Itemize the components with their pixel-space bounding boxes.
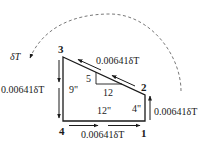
slope-rise-label: 5 [86, 74, 91, 84]
node-label-2: 2 [141, 82, 147, 93]
node-label-4: 4 [59, 126, 65, 137]
shear-label-left: 0.00641δT [1, 85, 44, 95]
dim-bottom-width: 12" [97, 106, 111, 116]
node-label-3: 3 [58, 44, 64, 55]
node-label-1: 1 [141, 128, 147, 139]
torque-label: δT [10, 52, 20, 62]
slope-run-label: 12 [103, 88, 113, 98]
shear-label-top: 0.00641δT [96, 56, 139, 66]
shear-label-bottom: 0.00641δT [81, 130, 124, 140]
torque-arc [30, 14, 181, 91]
dim-left-height: 9" [69, 85, 78, 95]
dim-right-height: 4" [132, 104, 141, 114]
shear-label-right: 0.00641δT [154, 107, 197, 117]
